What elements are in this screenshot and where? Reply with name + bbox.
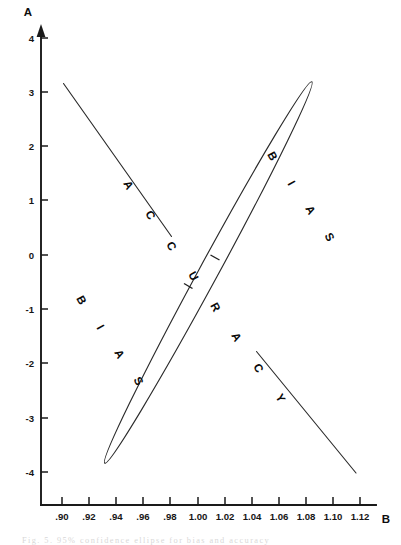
center-tick-upper bbox=[211, 255, 220, 260]
x-tick-label-2: .94 bbox=[109, 511, 123, 522]
confidence-ellipse-outer bbox=[96, 77, 320, 468]
confidence-ellipse-group bbox=[96, 77, 320, 468]
y-tick-label-m3: -3 bbox=[25, 413, 34, 424]
x-tick-label-1: .92 bbox=[82, 511, 95, 522]
accuracy-letter-1: C bbox=[143, 208, 159, 222]
center-line-group bbox=[64, 84, 357, 474]
bias-lower-letter-0: B bbox=[74, 293, 89, 307]
y-tick-label-group: 4 3 2 1 0 -1 -2 -3 -4 bbox=[25, 33, 34, 478]
x-tick-label-7: 1.04 bbox=[243, 511, 262, 522]
accuracy-letter-7: Y bbox=[273, 391, 288, 404]
x-tick-label-8: 1.06 bbox=[270, 511, 289, 522]
x-tick-label-0: .90 bbox=[55, 511, 68, 522]
x-tick-label-4: .98 bbox=[163, 511, 177, 522]
y-tick-label-0: 0 bbox=[29, 250, 34, 261]
x-tick-label-5: 1.00 bbox=[189, 511, 208, 522]
y-tick-label-m1: -1 bbox=[25, 304, 34, 315]
center-line-lower-segment bbox=[257, 352, 357, 474]
center-tick-group bbox=[184, 255, 220, 289]
x-tick-label-11: 1.12 bbox=[351, 511, 370, 522]
y-tick-label-m2: -2 bbox=[25, 358, 34, 369]
y-tick-label-m4: -4 bbox=[25, 467, 34, 478]
accuracy-letter-4: R bbox=[208, 300, 224, 314]
bias-upper-letter-1: I bbox=[285, 178, 298, 187]
x-tick-label-3: .96 bbox=[136, 511, 149, 522]
x-tick-label-9: 1.08 bbox=[297, 511, 316, 522]
y-tick-label-3: 3 bbox=[29, 87, 34, 98]
y-axis-arrowhead bbox=[37, 24, 46, 37]
bias-lower-letter-1: I bbox=[94, 322, 107, 331]
bias-upper-letter-2: A bbox=[303, 203, 319, 217]
bias-lower-letter-3: S bbox=[131, 374, 146, 387]
accuracy-letter-5: A bbox=[229, 330, 245, 344]
y-tick-label-1: 1 bbox=[29, 195, 35, 206]
x-tick-label-6: 1.02 bbox=[216, 511, 235, 522]
accuracy-letter-3: U bbox=[186, 269, 201, 283]
y-tick-group bbox=[41, 38, 48, 472]
x-tick-label-10: 1.10 bbox=[324, 511, 343, 522]
bias-label-lower: B I A S bbox=[74, 293, 146, 388]
bias-lower-letter-2: A bbox=[112, 347, 128, 361]
y-tick-label-4: 4 bbox=[29, 33, 35, 44]
x-tick-label-group: .90 .92 .94 .96 .98 1.00 1.02 1.04 1.06 … bbox=[55, 511, 369, 522]
accuracy-letter-6: C bbox=[251, 361, 267, 375]
bias-upper-letter-3: S bbox=[322, 230, 337, 243]
y-axis-title: A bbox=[24, 6, 32, 18]
x-axis-title: B bbox=[382, 513, 390, 525]
axis-group bbox=[37, 24, 376, 505]
y-tick-label-2: 2 bbox=[29, 141, 34, 152]
figure-caption: Fig. 5. 95% confidence ellipse for bias … bbox=[22, 536, 270, 545]
accuracy-letter-2: C bbox=[164, 239, 180, 253]
x-tick-group bbox=[62, 497, 360, 505]
accuracy-letter-0: A bbox=[121, 178, 137, 192]
